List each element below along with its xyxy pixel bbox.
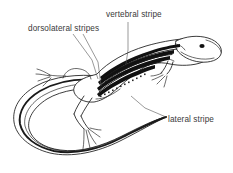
forefoot-toe-1 [151,73,162,76]
leader-dorsolateral-1 [73,34,98,79]
lizard-diagram-figure: vertebral stripe dorsolateral stripes la… [0,0,233,173]
label-lateral-stripe: lateral stripe [168,115,214,124]
label-vertebral-stripe: vertebral stripe [106,10,162,19]
leader-lateral [131,96,166,117]
eye [199,44,204,48]
label-dorsolateral-stripes: dorsolateral stripes [28,24,99,33]
forefoot-toe-4 [164,76,167,87]
hindlimb-shank [74,114,84,129]
hindlimb-group [74,96,101,149]
far-foot-toe-2 [36,74,50,76]
lizard-illustration: vertebral stripe dorsolateral stripes la… [0,0,233,173]
hindfoot-toe-5 [90,128,101,130]
hindfoot-toe-1 [83,129,84,149]
hindfoot-toe-3 [88,130,96,144]
